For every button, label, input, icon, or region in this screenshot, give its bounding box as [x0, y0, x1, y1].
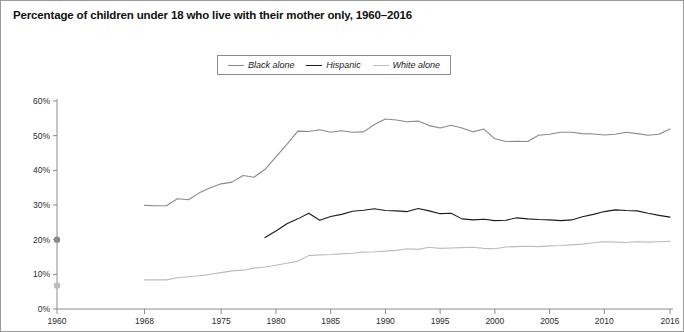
data-point-marker-white-alone	[54, 282, 60, 288]
x-axis-tick-label: 1975	[212, 316, 231, 326]
x-axis-tick-label: 1990	[376, 316, 395, 326]
y-axis-tick-label: 10%	[33, 269, 50, 279]
x-axis-tick-label: 1968	[135, 316, 154, 326]
y-axis-tick-label: 50%	[33, 131, 50, 141]
series-line-black-alone	[145, 119, 670, 206]
x-axis-tick-label: 1985	[321, 316, 340, 326]
data-point-marker-black-alone	[54, 236, 60, 242]
x-axis-tick-label: 2016	[661, 316, 680, 326]
data-series-group	[145, 119, 670, 280]
x-axis-tick-label: 2010	[595, 316, 614, 326]
y-axis-tick-label: 0%	[38, 304, 51, 314]
y-axis: 0%10%20%30%40%50%60%	[33, 96, 57, 314]
series-line-white-alone	[145, 241, 670, 279]
x-axis: 1960196819751980198519901995200020052010…	[48, 309, 680, 326]
x-axis-tick-label: 2005	[540, 316, 559, 326]
series-line-hispanic	[265, 208, 670, 237]
plot-area: 0%10%20%30%40%50%60% 1960196819751980198…	[1, 1, 684, 332]
x-axis-tick-label: 1980	[266, 316, 285, 326]
y-axis-tick-label: 20%	[33, 235, 50, 245]
chart-figure: Percentage of children under 18 who live…	[0, 0, 684, 332]
y-axis-tick-label: 30%	[33, 200, 50, 210]
y-axis-tick-label: 60%	[33, 96, 50, 106]
x-axis-tick-label: 1995	[431, 316, 450, 326]
x-axis-tick-label: 1960	[48, 316, 67, 326]
y-axis-tick-label: 40%	[33, 165, 50, 175]
x-axis-tick-label: 2000	[485, 316, 504, 326]
